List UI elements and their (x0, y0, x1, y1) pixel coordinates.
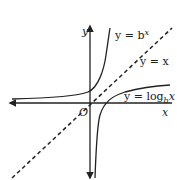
x-axis-label: x (162, 106, 169, 119)
identity-label: y = x (139, 55, 169, 68)
function-graph: y x O y = bx y = x y = logbx (0, 0, 177, 180)
exponential-label: y = bx (114, 28, 149, 42)
y-axis-label: y (81, 25, 89, 38)
exponential-curve (12, 28, 110, 99)
logarithm-label: y = logbx (123, 90, 176, 105)
origin-label: O (79, 106, 88, 119)
